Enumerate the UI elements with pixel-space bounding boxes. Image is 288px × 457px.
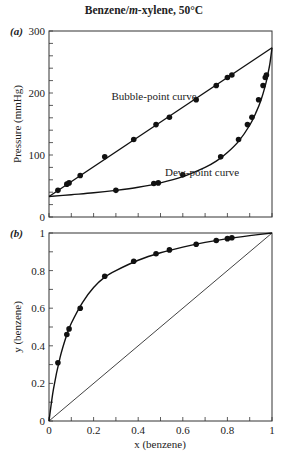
y-tick-label: 0.4 [31, 340, 45, 352]
data-point-marker [249, 114, 255, 120]
panel-b-data-points [55, 235, 235, 366]
data-point-marker [66, 180, 72, 186]
data-point-marker [55, 360, 61, 366]
panel-a-annotations: Bubble-point curveDew-point curve [111, 90, 239, 178]
y-tick-label: 0 [40, 211, 46, 223]
bubble-point-curve-label: Bubble-point curve [111, 90, 196, 102]
x-tick-label: 0 [46, 424, 52, 436]
y-tick-label: 0 [40, 415, 46, 427]
data-point-marker [113, 188, 119, 194]
y-tick-label: 100 [29, 149, 46, 161]
y-tick-label: 1 [40, 227, 46, 239]
data-point-marker [264, 72, 270, 78]
data-point-marker [236, 137, 242, 143]
panel-b-x-tick-labels: 00.20.40.60.81 [46, 424, 275, 436]
panel-a-label: (a) [10, 25, 23, 38]
panel-b-y-tick-labels: 00.20.40.60.81 [31, 227, 45, 427]
x-tick-label: 0.6 [176, 424, 190, 436]
data-point-marker [167, 114, 173, 120]
data-point-marker [155, 180, 161, 186]
data-point-marker [229, 72, 235, 78]
data-point-marker [229, 235, 235, 241]
panel-b-xy-diagram: (b) 00.20.40.60.81 00.20.40.60.81 y (ben… [10, 227, 275, 451]
panel-b-label: (b) [10, 227, 23, 240]
panel-a-pressure-composition: (a) 0100200300 Pressure (mmHg) Bubble-po… [10, 25, 272, 223]
y-tick-label: 0.6 [31, 302, 45, 314]
data-point-marker [102, 154, 108, 160]
data-point-marker [153, 251, 159, 257]
data-point-marker [55, 188, 61, 194]
panel-a-ticks [49, 31, 272, 217]
data-point-marker [66, 326, 72, 332]
data-point-marker [102, 273, 108, 279]
panel-a-y-tick-labels: 0100200300 [29, 25, 46, 223]
data-point-marker [256, 97, 262, 103]
x-tick-label: 0.4 [131, 424, 145, 436]
panel-b-y-axis-label: y (benzene) [11, 301, 24, 353]
panel-b-x-axis-label: x (benzene) [134, 438, 186, 451]
dew-point-curve-label: Dew-point curve [165, 166, 239, 178]
data-point-marker [77, 173, 83, 179]
data-point-marker [64, 332, 70, 338]
chart-canvas: (a) 0100200300 Pressure (mmHg) Bubble-po… [0, 0, 288, 457]
panel-a-y-axis-label: Pressure (mmHg) [11, 85, 24, 163]
x-tick-label: 0.8 [221, 424, 235, 436]
data-point-marker [260, 83, 266, 89]
data-point-marker [167, 247, 173, 253]
data-point-marker [213, 238, 219, 244]
data-point-marker [213, 83, 219, 89]
data-point-marker [218, 154, 224, 160]
y-tick-label: 200 [29, 87, 46, 99]
data-point-marker [193, 241, 199, 247]
y-tick-label: 0.2 [31, 377, 45, 389]
x-tick-label: 0.2 [87, 424, 101, 436]
data-point-marker [245, 122, 251, 128]
data-point-marker [131, 258, 137, 264]
y-tick-label: 300 [29, 25, 46, 37]
diagonal-y-x-line [49, 233, 272, 421]
data-point-marker [131, 137, 137, 143]
data-point-marker [153, 122, 159, 128]
y-tick-label: 0.8 [31, 265, 45, 277]
panel-b-curves [49, 233, 272, 421]
data-point-marker [77, 305, 83, 311]
x-tick-label: 1 [269, 424, 275, 436]
panel-a-frame [49, 31, 272, 217]
